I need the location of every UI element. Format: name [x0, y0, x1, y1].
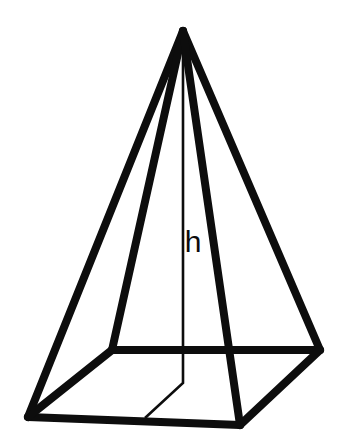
edge-base-front: [28, 417, 240, 425]
pyramid-diagram-svg: h: [0, 0, 344, 440]
height-label: h: [185, 225, 202, 258]
edge-base-right: [240, 350, 320, 425]
pyramid-figure: h: [0, 0, 344, 440]
